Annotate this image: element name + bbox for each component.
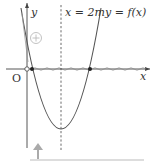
origin-point — [25, 67, 29, 71]
root-point-left — [30, 67, 34, 71]
up-arrow-icon — [33, 143, 43, 159]
root-point-right — [88, 67, 92, 71]
circled-plus-icon — [31, 33, 42, 44]
y-axis-arrow-icon — [25, 3, 29, 8]
y-axis-label: y — [30, 6, 38, 19]
vertical-line-label: x = 2m — [65, 6, 105, 19]
origin-label: O — [12, 72, 21, 85]
curve-label: y = f(x) — [104, 6, 146, 19]
x-axis-label: x — [140, 70, 147, 83]
parabola-diagram: y x O x = 2m y = f(x) — [0, 0, 154, 161]
